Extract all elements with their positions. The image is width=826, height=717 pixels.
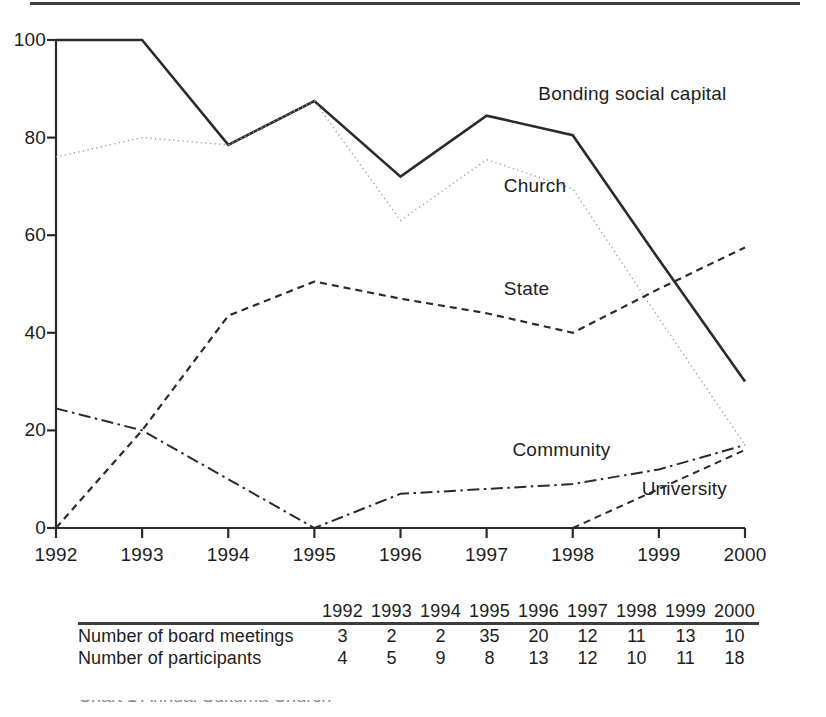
page-root: 0204060801001992199319941995199619971998… [0,0,826,717]
table-column-header: 1998 [612,600,661,624]
table-row: Number of board meetings322352012111310 [78,625,759,647]
table-corner-cell [78,600,318,624]
table-cell: 13 [661,625,710,647]
table-cell: 11 [661,647,710,669]
series-label-university: University [642,478,727,500]
series-label-community: Community [512,439,610,461]
y-axis-tick-label: 80 [0,127,46,149]
table-column-header: 1996 [514,600,563,624]
series-label-state: State [504,278,549,300]
y-axis-ticks [47,40,56,528]
table-row: Number of participants45981312101118 [78,647,759,669]
x-axis-tick-label: 1996 [371,544,431,566]
table-column-header: 1997 [563,600,612,624]
x-axis-tick-label: 2000 [715,544,775,566]
y-axis-tick-label: 60 [0,224,46,246]
table-cell: 3 [318,625,367,647]
table-cell: 2 [367,625,416,647]
series-line-community [56,408,745,528]
table-column-header: 1993 [367,600,416,624]
x-axis-tick-label: 1998 [543,544,603,566]
x-axis-tick-label: 1993 [112,544,172,566]
table-column-header: 2000 [710,600,759,624]
y-axis-tick-label: 40 [0,322,46,344]
x-axis-tick-label: 1995 [284,544,344,566]
figure-caption-text: Chart 1 Annual Sukuma Church [78,700,331,707]
y-axis-tick-label: 0 [0,517,46,539]
y-axis-tick-label: 100 [0,29,46,51]
x-axis-tick-label: 1994 [198,544,258,566]
summary-table-grid: 199219931994199519961997199819992000 Num… [78,600,759,669]
x-axis-tick-label: 1999 [629,544,689,566]
table-row-label: Number of participants [78,647,318,669]
table-cell: 12 [563,625,612,647]
table-column-header: 1995 [465,600,514,624]
table-column-header: 1999 [661,600,710,624]
table-cell: 13 [514,647,563,669]
y-axis-tick-label: 20 [0,419,46,441]
table-cell: 4 [318,647,367,669]
table-row-label: Number of board meetings [78,625,318,647]
x-axis-tick-label: 1992 [26,544,86,566]
table-cell: 5 [367,647,416,669]
x-axis-tick-label: 1997 [457,544,517,566]
table-cell: 8 [465,647,514,669]
table-cell: 10 [612,647,661,669]
table-cell: 2 [416,625,465,647]
summary-table-head: 199219931994199519961997199819992000 [78,600,759,625]
table-cell: 20 [514,625,563,647]
chart-axes [56,39,745,528]
table-cell: 10 [710,625,759,647]
table-cell: 12 [563,647,612,669]
table-cell: 18 [710,647,759,669]
summary-table-body: Number of board meetings322352012111310N… [78,625,759,669]
series-label-church: Church [504,175,566,197]
table-cell: 11 [612,625,661,647]
x-axis-ticks [56,528,745,538]
table-cell: 9 [416,647,465,669]
series-label-bonding-social-capital: Bonding social capital [538,83,726,105]
line-chart-figure: 0204060801001992199319941995199619971998… [0,0,826,580]
table-column-header: 1992 [318,600,367,624]
table-header-row: 199219931994199519961997199819992000 [78,600,759,624]
table-column-header: 1994 [416,600,465,624]
table-cell: 35 [465,625,514,647]
figure-caption-clipped: Chart 1 Annual Sukuma Church [78,700,498,717]
series-line-church [56,101,745,445]
